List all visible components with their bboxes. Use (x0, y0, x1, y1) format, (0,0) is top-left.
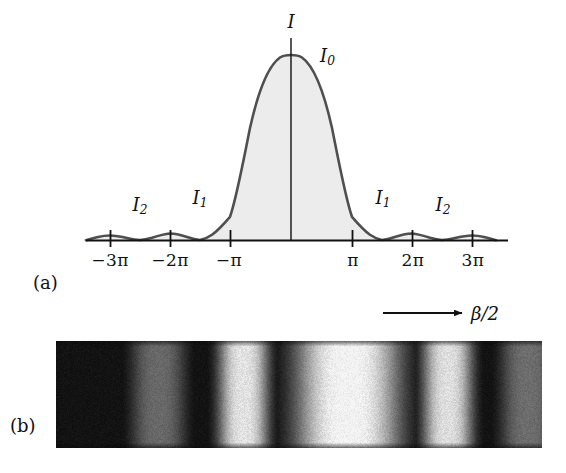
tick-label-pi: π (347, 250, 359, 270)
secondary-max-label-left-2: I2 (132, 196, 147, 217)
tick-label-3pi: 3π (462, 250, 485, 270)
panel-a-intensity-plot: I I0 I2 I1 I1 I2 −3π −2π −π π 2π 3π (a) (0, 0, 566, 300)
beta-over-two-label: β/2 (471, 303, 499, 324)
secondary-max-label-right-2: I2 (435, 196, 450, 217)
tick-label-minus-3pi: −3π (91, 250, 129, 270)
tick-label-2pi: 2π (402, 250, 425, 270)
tick-label-minus-pi: −π (216, 250, 242, 270)
panel-b-caption: (b) (10, 415, 36, 436)
peak-intensity-label: I0 (320, 47, 335, 68)
figure-single-slit-diffraction: I I0 I2 I1 I1 I2 −3π −2π −π π 2π 3π (a) (0, 0, 566, 473)
secondary-max-label-left-1: I1 (192, 189, 207, 210)
y-axis-label: I (287, 13, 294, 31)
diffraction-fringes-canvas (56, 341, 542, 448)
panel-a-caption: (a) (33, 272, 58, 293)
diffraction-pattern-photograph (56, 341, 542, 448)
secondary-max-label-right-1: I1 (375, 189, 390, 210)
tick-label-minus-2pi: −2π (151, 250, 189, 270)
